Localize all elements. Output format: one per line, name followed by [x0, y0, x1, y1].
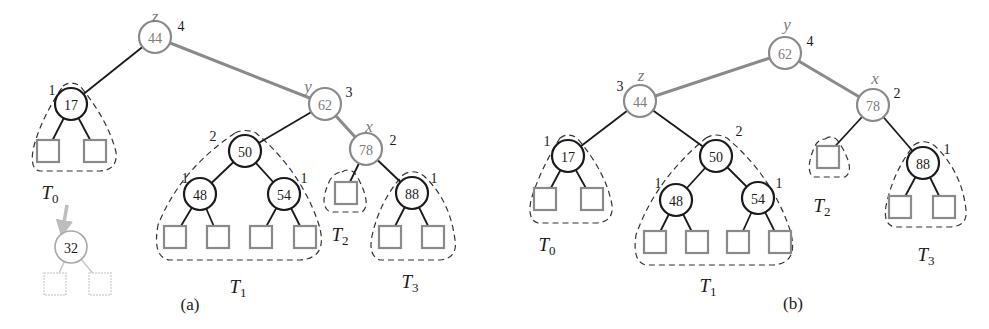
node-key: 54 — [277, 188, 291, 203]
node-height-label: 1 — [182, 171, 189, 186]
node-height-label: 1 — [655, 176, 662, 191]
node-key: 50 — [238, 145, 252, 160]
node-height-label: 4 — [807, 34, 814, 49]
subtree-label: T0 — [538, 234, 555, 258]
panel-caption: (b) — [783, 294, 803, 313]
external-node — [44, 273, 66, 295]
subtree-label: T1 — [699, 275, 716, 299]
node-key: 48 — [669, 194, 683, 209]
node-variable-label: x — [364, 117, 373, 136]
tree-edge — [155, 37, 325, 104]
node-key: 50 — [709, 150, 723, 165]
node-height-label: 1 — [776, 176, 783, 191]
tree-node-17: 171 — [544, 134, 585, 173]
external-node — [294, 226, 316, 248]
node-variable-label: y — [302, 77, 312, 96]
subtree-label: T2 — [813, 195, 830, 219]
subtree-label: T2 — [331, 224, 348, 248]
avl-trinode-restructure-figure: T0T1T2T3444z171623y502782x48154188132(a)… — [0, 0, 989, 329]
external-node — [422, 226, 444, 248]
node-height-label: 2 — [736, 124, 743, 139]
subtree-label: T1 — [229, 276, 246, 300]
external-node — [644, 231, 666, 253]
node-variable-label: z — [151, 7, 159, 26]
node-key: 62 — [318, 98, 332, 113]
panel-a-before-rotation: T0T1T2T3444z171623y502782x48154188132(a) — [32, 7, 455, 314]
node-height-label: 2 — [894, 86, 901, 101]
external-node — [335, 182, 357, 204]
tree-node-32: 32 — [55, 231, 87, 263]
node-variable-label: z — [637, 66, 645, 85]
node-height-label: 2 — [390, 133, 397, 148]
external-node — [207, 226, 229, 248]
tree-node-88: 881 — [396, 171, 438, 210]
node-height-label: 1 — [301, 171, 308, 186]
external-node — [769, 231, 791, 253]
tree-node-54: 541 — [742, 176, 783, 215]
panel-caption: (a) — [181, 295, 200, 314]
node-height-label: 3 — [346, 85, 353, 100]
node-height-label: 1 — [544, 134, 551, 149]
tree-node-50: 502 — [210, 129, 262, 168]
node-key: 62 — [778, 47, 792, 62]
tree-node-48: 481 — [655, 176, 693, 217]
tree-node-78: 782x — [857, 69, 901, 122]
node-key: 78 — [359, 143, 373, 158]
node-key: 44 — [633, 95, 647, 110]
node-key: 17 — [64, 98, 78, 113]
node-variable-label: x — [870, 69, 879, 88]
node-height-label: 1 — [49, 83, 56, 98]
node-key: 54 — [751, 192, 765, 207]
external-node — [817, 146, 839, 168]
external-node — [581, 188, 603, 210]
external-node — [37, 140, 59, 162]
external-node — [686, 231, 708, 253]
external-node — [250, 226, 272, 248]
external-node — [379, 226, 401, 248]
external-node — [889, 196, 911, 218]
subtree-label: T0 — [41, 182, 58, 206]
subtree-label: T3 — [917, 244, 934, 268]
node-key: 78 — [866, 99, 880, 114]
external-node — [84, 140, 106, 162]
tree-node-50: 502 — [700, 124, 743, 173]
node-height-label: 4 — [178, 19, 185, 34]
tree-node-78: 782x — [350, 117, 397, 166]
node-height-label: 3 — [617, 79, 624, 94]
node-height-label: 2 — [210, 129, 217, 144]
insertion-arrow-icon — [62, 205, 67, 234]
node-variable-label: y — [781, 15, 791, 34]
node-key: 88 — [916, 157, 930, 172]
node-key: 17 — [561, 150, 575, 165]
external-node — [89, 273, 111, 295]
node-key: 88 — [405, 187, 419, 202]
external-node — [534, 188, 556, 210]
node-key: 32 — [64, 241, 78, 256]
node-key: 44 — [148, 31, 162, 46]
subtree-label: T3 — [401, 271, 418, 295]
node-height-label: 1 — [431, 171, 438, 186]
node-height-label: 1 — [944, 142, 951, 157]
external-node — [164, 226, 186, 248]
tree-node-88: 881 — [907, 142, 951, 180]
external-node — [727, 231, 749, 253]
node-key: 48 — [193, 188, 207, 203]
tree-node-54: 541 — [268, 171, 308, 211]
tree-node-44: 443z — [617, 66, 657, 118]
external-node — [933, 196, 955, 218]
tree-node-48: 481 — [182, 171, 217, 211]
panel-b-after-rotation: T0T1T2T3624y443z782x171502481541881(b) — [530, 15, 966, 313]
tree-node-62: 624y — [769, 15, 814, 70]
tree-edge — [640, 53, 785, 101]
